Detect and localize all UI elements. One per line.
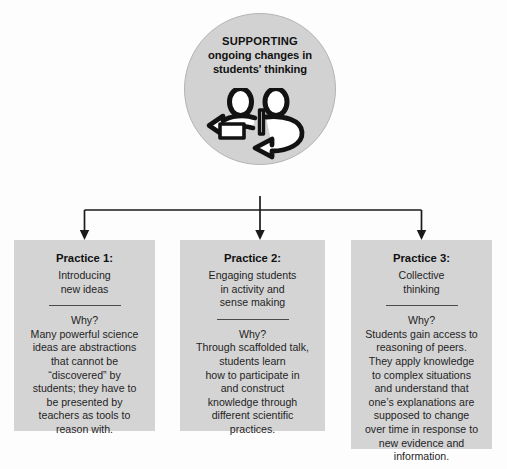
practice-2-divider	[217, 319, 289, 320]
practice-2-subtitle-line: sense making	[189, 296, 316, 310]
practice-3-why-body: Students gain access to reasoning of pee…	[360, 328, 483, 464]
practice-1-why-line: “discovered” by	[23, 369, 146, 383]
practice-3-title: Practice 3:	[360, 251, 483, 266]
practice-1-why-line: be presented by	[23, 396, 146, 410]
practice-1-subtitle-line: new ideas	[23, 283, 146, 297]
practice-3-why-line: and understand that	[360, 382, 483, 396]
practice-2-why-line: students learn	[189, 355, 316, 369]
practice-2-why-line: and construct	[189, 382, 316, 396]
practice-2-why-line: Through scaffolded talk,	[189, 341, 316, 355]
practice-3-why-line: reasoning of peers.	[360, 341, 483, 355]
practice-2-why-body: Through scaffolded talk, students learn …	[189, 341, 316, 436]
practice-1-why-line: students; they have to	[23, 382, 146, 396]
practice-1-title: Practice 1:	[23, 251, 146, 266]
practice-2-why-line: different scientific	[189, 409, 316, 423]
practice-card-1: Practice 1: Introducing new ideas Why? M…	[14, 240, 155, 431]
practice-card-3: Practice 3: Collective thinking Why? Stu…	[351, 240, 492, 449]
arrowhead-1	[80, 230, 89, 240]
practice-1-why-line: teachers as tools to	[23, 409, 146, 423]
practice-2-subtitle: Engaging students in activity and sense …	[189, 269, 316, 310]
practice-3-why-line: new evidence and	[360, 437, 483, 451]
practice-1-subtitle: Introducing new ideas	[23, 269, 146, 296]
arrowhead-2	[255, 230, 264, 240]
practice-2-why-line: how to participate in	[189, 369, 316, 383]
practice-1-why-body: Many powerful science ideas are abstract…	[23, 328, 146, 437]
practice-3-why-line: one’s explanations are	[360, 396, 483, 410]
practice-2-title: Practice 2:	[189, 251, 316, 266]
connector-arrows	[0, 160, 507, 246]
practice-3-why-line: Students gain access to	[360, 328, 483, 342]
practice-2-why-line: practices.	[189, 423, 316, 437]
practice-3-divider	[386, 305, 458, 306]
practice-3-why-label: Why?	[360, 314, 483, 328]
practice-1-why-line: reason with.	[23, 423, 146, 437]
root-node-supporting-ongoing-changes: SUPPORTING ongoing changes in students' …	[184, 13, 336, 165]
practice-3-why-line: supposed to change	[360, 409, 483, 423]
root-title-line-3: students' thinking	[185, 62, 335, 76]
practice-2-subtitle-line: in activity and	[189, 283, 316, 297]
practice-card-2: Practice 2: Engaging students in activit…	[180, 240, 325, 431]
root-title-line-1: SUPPORTING	[185, 34, 335, 48]
practice-2-why-line: knowledge through	[189, 396, 316, 410]
practice-3-why-line: information.	[360, 450, 483, 464]
practice-1-why-line: Many powerful science	[23, 328, 146, 342]
practice-3-why-line: They apply knowledge	[360, 355, 483, 369]
practice-3-subtitle: Collective thinking	[360, 269, 483, 296]
practice-1-why-line: that cannot be	[23, 355, 146, 369]
practice-1-why-label: Why?	[23, 314, 146, 328]
practice-3-why-line: to complex situations	[360, 369, 483, 383]
practice-1-divider	[49, 305, 121, 306]
practice-3-subtitle-line: Collective	[360, 269, 483, 283]
practice-3-subtitle-line: thinking	[360, 283, 483, 297]
root-node-title: SUPPORTING ongoing changes in students' …	[185, 34, 335, 77]
root-title-line-2: ongoing changes in	[185, 48, 335, 62]
practices-flow-diagram: SUPPORTING ongoing changes in students' …	[0, 0, 507, 469]
practice-3-why-line: over time in response to	[360, 423, 483, 437]
two-people-dialogue-icon	[200, 88, 320, 166]
arrowhead-3	[417, 230, 426, 240]
practice-1-why-line: ideas are abstractions	[23, 341, 146, 355]
practice-1-subtitle-line: Introducing	[23, 269, 146, 283]
practice-2-why-label: Why?	[189, 328, 316, 342]
practice-2-subtitle-line: Engaging students	[189, 269, 316, 283]
